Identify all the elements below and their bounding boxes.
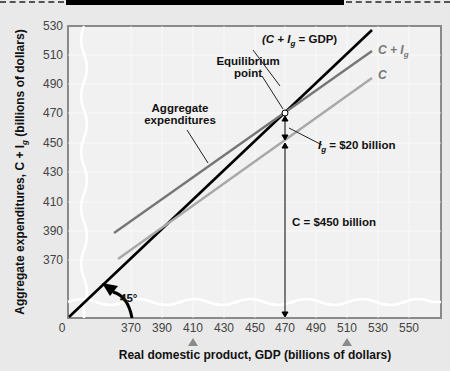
svg-text:370: 370 — [121, 321, 141, 335]
svg-text:510: 510 — [337, 321, 357, 335]
x-axis-title: Real domestic product, GDP (billions of … — [119, 348, 391, 362]
svg-text:490: 490 — [306, 321, 326, 335]
svg-text:510: 510 — [43, 48, 63, 62]
svg-text:390: 390 — [152, 321, 172, 335]
y-axis-title: Aggregate expenditures, C + Ig (billions… — [13, 29, 29, 314]
svg-text:530: 530 — [43, 19, 63, 33]
svg-text:390: 390 — [43, 224, 63, 238]
angle-label: 45° — [120, 292, 138, 304]
x-axis-ticks: 0 370 390 410 430 450 470 490 510 530 55… — [59, 321, 420, 335]
svg-text:0: 0 — [59, 321, 66, 335]
svg-text:430: 430 — [43, 165, 63, 179]
svg-text:470: 470 — [275, 321, 295, 335]
equilibrium-label-line1: Equilibrium — [216, 55, 279, 67]
svg-text:370: 370 — [43, 253, 63, 267]
svg-text:430: 430 — [214, 321, 234, 335]
equilibrium-label-line2: point — [234, 67, 262, 79]
aggregate-label-line1: Aggregate — [152, 102, 209, 114]
svg-text:550: 550 — [399, 321, 419, 335]
equilibrium-point-marker — [282, 110, 288, 116]
svg-text:450: 450 — [245, 321, 265, 335]
c-label: C — [378, 68, 387, 82]
triangle-marker-icon-410 — [188, 338, 198, 346]
triangle-marker-icon-510 — [342, 338, 352, 346]
aggregate-label-line2: expenditures — [144, 114, 216, 126]
y-axis-ticks: 530 510 490 470 450 430 410 390 370 — [43, 19, 63, 267]
svg-text:410: 410 — [43, 195, 63, 209]
svg-text:490: 490 — [43, 77, 63, 91]
svg-text:470: 470 — [43, 106, 63, 120]
c-value-label: C = $450 billion — [292, 216, 376, 228]
svg-text:530: 530 — [368, 321, 388, 335]
svg-text:410: 410 — [183, 321, 203, 335]
svg-text:450: 450 — [43, 136, 63, 150]
aggregate-expenditures-chart: 45° (C + Ig = GDP) C + Ig C Equilibrium … — [0, 0, 450, 371]
